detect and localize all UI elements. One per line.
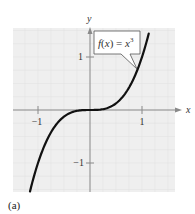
y-axis-label: y (86, 13, 92, 24)
x-axis-label: x (185, 104, 191, 115)
x-tick-label: −1 (32, 116, 43, 127)
y-tick-label: −1 (73, 157, 84, 168)
function-label: f(x) = x3 (98, 36, 134, 50)
figure-caption: (a) (8, 199, 20, 211)
y-tick-label: 1 (78, 51, 83, 62)
x-axis-arrow-icon (175, 108, 182, 113)
x-tick-label: 1 (140, 116, 145, 127)
chart: −1 1 1 −1 x y f(x) = x3 (0, 0, 195, 214)
